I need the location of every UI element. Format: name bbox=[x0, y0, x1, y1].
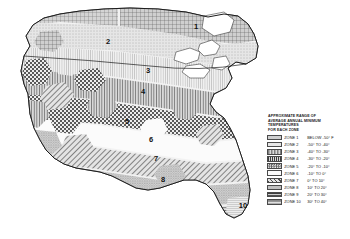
legend-row: ZONE 4-30° TO -20° bbox=[267, 156, 350, 163]
zone-label-3: 3 bbox=[146, 66, 150, 75]
zone-label-2: 2 bbox=[106, 37, 110, 46]
legend-rows: ZONE 1BELOW -50° FZONE 2-50° TO -40°ZONE… bbox=[267, 134, 350, 205]
legend-row: ZONE 6-10° TO 0° bbox=[267, 170, 350, 177]
legend-zone-label: ZONE 3 bbox=[284, 149, 307, 154]
legend-temp-range: BELOW -50° F bbox=[307, 135, 333, 140]
legend-swatch-grid bbox=[267, 135, 282, 141]
legend-swatch-blank bbox=[267, 170, 282, 176]
legend-row: ZONE 3-40° TO -30° bbox=[267, 148, 350, 155]
zone-label-10: 10 bbox=[239, 201, 247, 210]
legend-swatch-stipple-light bbox=[267, 142, 282, 148]
legend-row: ZONE 70° TO 10° bbox=[267, 177, 350, 184]
legend: APPROXIMATE RANGE OF AVERAGE ANNUAL MINI… bbox=[267, 114, 350, 206]
zone-label-7: 7 bbox=[154, 154, 158, 163]
legend-row: ZONE 1BELOW -50° F bbox=[267, 134, 350, 141]
legend-zone-label: ZONE 9 bbox=[284, 192, 307, 197]
legend-swatch-horiz-fine bbox=[267, 199, 282, 205]
legend-temp-range: -40° TO -30° bbox=[307, 149, 329, 154]
legend-row: ZONE 1030° TO 40° bbox=[267, 198, 350, 205]
zone-label-8: 8 bbox=[161, 175, 165, 184]
legend-title: APPROXIMATE RANGE OF AVERAGE ANNUAL MINI… bbox=[268, 114, 350, 132]
zone-label-6: 6 bbox=[149, 135, 153, 144]
legend-swatch-vert-fine bbox=[267, 149, 282, 155]
legend-row: ZONE 2-50° TO -40° bbox=[267, 141, 350, 148]
legend-row: ZONE 920° TO 30° bbox=[267, 191, 350, 198]
legend-zone-label: ZONE 2 bbox=[284, 142, 307, 147]
zone-label-1: 1 bbox=[194, 22, 198, 31]
legend-zone-label: ZONE 7 bbox=[284, 178, 307, 183]
hardiness-zone-map-page: 1 2 3 4 5 6 7 8 10 APPROXIMATE RANGE OF … bbox=[0, 0, 350, 239]
legend-temp-range: 0° TO 10° bbox=[307, 178, 324, 183]
legend-temp-range: -30° TO -20° bbox=[307, 156, 329, 161]
map-graphic: 1 2 3 4 5 6 7 8 10 bbox=[0, 0, 266, 232]
legend-zone-label: ZONE 5 bbox=[284, 164, 307, 169]
legend-temp-range: -20° TO -10° bbox=[307, 164, 329, 169]
legend-zone-label: ZONE 1 bbox=[284, 135, 307, 140]
legend-temp-range: -50° TO -40° bbox=[307, 142, 329, 147]
legend-title-line-4: FOR EACH ZONE bbox=[268, 128, 350, 133]
legend-temp-range: 30° TO 40° bbox=[307, 199, 327, 204]
legend-swatch-vert-bold bbox=[267, 156, 282, 162]
legend-zone-label: ZONE 4 bbox=[284, 156, 307, 161]
legend-row: ZONE 810° TO 20° bbox=[267, 184, 350, 191]
legend-temp-range: -10° TO 0° bbox=[307, 171, 326, 176]
legend-zone-label: ZONE 10 bbox=[284, 199, 307, 204]
legend-zone-label: ZONE 6 bbox=[284, 171, 307, 176]
legend-swatch-stipple-dense bbox=[267, 185, 282, 191]
legend-swatch-checker bbox=[267, 163, 282, 169]
legend-row: ZONE 5-20° TO -10° bbox=[267, 163, 350, 170]
map-area: 1 2 3 4 5 6 7 8 10 bbox=[0, 0, 266, 232]
legend-zone-label: ZONE 8 bbox=[284, 185, 307, 190]
legend-temp-range: 10° TO 20° bbox=[307, 185, 327, 190]
legend-swatch-diag bbox=[267, 178, 282, 184]
legend-temp-range: 20° TO 30° bbox=[307, 192, 327, 197]
legend-swatch-horiz-bold bbox=[267, 192, 282, 198]
zone-label-5: 5 bbox=[125, 117, 129, 126]
